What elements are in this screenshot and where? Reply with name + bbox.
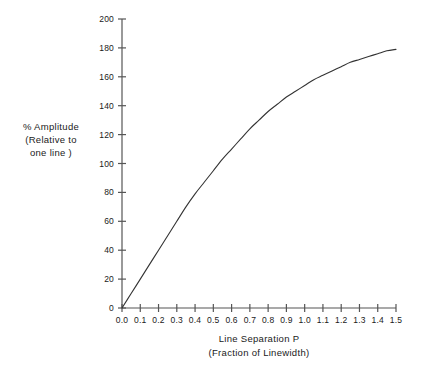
- axes: [122, 19, 396, 308]
- x-axis-ticks: 0.00.10.20.30.40.50.60.70.80.91.01.11.21…: [116, 304, 402, 325]
- x-tick-label: 0.8: [262, 315, 274, 325]
- y-tick-label: 40: [104, 245, 114, 255]
- y-axis-title-line1: % Amplitude: [8, 120, 94, 133]
- y-tick-label: 160: [99, 72, 114, 82]
- chart-figure: % Amplitude (Relative to one line ) Line…: [0, 0, 426, 369]
- y-axis-title-line3: one line ): [8, 146, 94, 159]
- y-tick-label: 140: [99, 101, 114, 111]
- x-tick-label: 1.0: [298, 315, 310, 325]
- x-tick-label: 1.2: [335, 315, 347, 325]
- data-series-group: [122, 49, 396, 308]
- x-tick-label: 0.2: [152, 315, 164, 325]
- y-tick-label: 60: [104, 216, 114, 226]
- x-tick-label: 0.7: [244, 315, 256, 325]
- x-tick-label: 1.4: [372, 315, 384, 325]
- x-tick-label: 0.9: [280, 315, 292, 325]
- x-tick-label: 1.3: [353, 315, 365, 325]
- x-tick-label: 0.5: [207, 315, 219, 325]
- x-axis-title: Line Separation P (Fraction of Linewidth…: [122, 332, 396, 360]
- x-tick-label: 1.1: [317, 315, 329, 325]
- y-tick-label: 80: [104, 187, 114, 197]
- y-axis-title-line2: (Relative to: [8, 133, 94, 146]
- y-tick-label: 20: [104, 274, 114, 284]
- y-tick-label: 0: [109, 303, 114, 313]
- x-tick-label: 0.3: [171, 315, 183, 325]
- y-axis-title: % Amplitude (Relative to one line ): [8, 120, 94, 159]
- x-tick-label: 1.5: [390, 315, 402, 325]
- x-tick-label: 0.0: [116, 315, 128, 325]
- x-axis-title-line2: (Fraction of Linewidth): [122, 346, 396, 360]
- data-series-line: [122, 49, 396, 308]
- x-tick-label: 0.1: [134, 315, 146, 325]
- y-tick-label: 100: [99, 159, 114, 169]
- y-tick-label: 120: [99, 130, 114, 140]
- x-axis-title-line1: Line Separation P: [122, 332, 396, 346]
- x-tick-label: 0.4: [189, 315, 201, 325]
- x-tick-label: 0.6: [225, 315, 237, 325]
- plot-area: 020406080100120140160180200 0.00.10.20.3…: [0, 0, 426, 369]
- y-tick-label: 200: [99, 14, 114, 24]
- y-tick-label: 180: [99, 43, 114, 53]
